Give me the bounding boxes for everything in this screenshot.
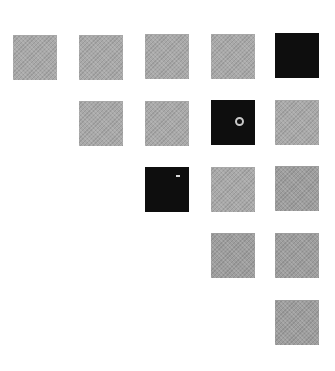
square-r2-c2 xyxy=(79,101,123,146)
square-r2-c5 xyxy=(275,100,319,145)
square-r1-c1 xyxy=(13,35,57,80)
square-r1-c5-dark xyxy=(275,33,319,78)
square-r3-c4 xyxy=(211,167,255,212)
square-r2-c3 xyxy=(145,101,189,146)
square-r1-c2 xyxy=(79,35,123,80)
square-r1-c4 xyxy=(211,34,255,79)
square-r1-c3 xyxy=(145,34,189,79)
square-r5-c5 xyxy=(275,300,319,345)
square-r3-c5 xyxy=(275,166,319,211)
dash-mark-icon xyxy=(176,175,180,177)
square-r4-c5 xyxy=(275,233,319,278)
ring-mark-icon xyxy=(235,117,244,126)
square-r3-c3-dark xyxy=(145,167,189,212)
square-r4-c4 xyxy=(211,233,255,278)
square-r2-c4-dark xyxy=(211,100,255,145)
